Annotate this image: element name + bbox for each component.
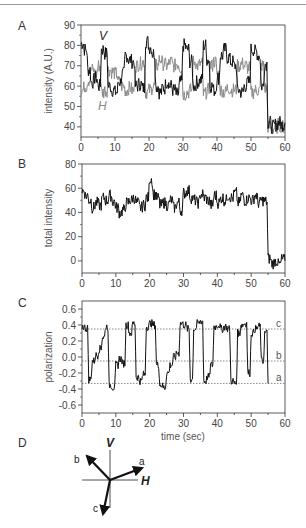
x-tick-label: 30 [178,418,190,429]
x-tick-label: 50 [246,278,258,289]
vector-b-label: b [74,454,80,465]
series-total-line [82,178,285,269]
series-polarization-line [82,320,268,391]
ref-label-b: b [276,350,282,361]
series-h-label: H [98,99,107,113]
y-tick-label: -0.6 [59,400,77,411]
x-axis-title: time (sec) [161,431,205,442]
y-tick-label: 60 [65,183,77,194]
x-tick-label: 50 [245,142,257,153]
y-tick-label: 90 [64,20,76,31]
diagram-h-label: H [141,474,150,488]
panel-d-diagram: V H a b c [74,436,150,514]
panel-b-chart: 0102030405060020406080 total intensity [43,159,291,290]
y-tick-label: 0.0 [62,352,76,363]
y-tick-label: 40 [65,207,77,218]
y-axis-title: total intensity [43,189,54,247]
y-tick-label: 50 [64,101,76,112]
x-tick-label: 40 [212,278,224,289]
x-tick-label: 20 [144,278,156,289]
x-tick-label: 10 [109,142,121,153]
vector-a-label: a [139,456,145,467]
y-tick-label: 80 [64,40,76,51]
diagram-v-label: V [106,436,115,450]
ref-label-a: a [276,372,282,383]
y-tick-label: -0.2 [59,368,77,379]
figure: A B C D 0102030405060405060708090 V H in… [0,0,306,528]
x-tick-label: 20 [143,142,155,153]
y-tick-label: 0.6 [62,304,76,315]
panel-a-chart: 0102030405060405060708090 V H intensity … [43,20,291,154]
vector-b-arrow [87,456,110,480]
x-tick-label: 0 [79,418,85,429]
y-tick-label: 0.2 [62,336,76,347]
vector-c-label: c [93,503,98,514]
axes: 01020304050600.60.40.20.0-0.2-0.4-0.6 [59,304,291,430]
panel-letter-b: B [18,157,26,171]
y-tick-label: 0 [70,255,76,266]
x-tick-label: 10 [110,278,122,289]
x-tick-label: 10 [110,418,122,429]
panel-letter-c: C [18,296,27,310]
x-tick-label: 0 [78,142,84,153]
x-tick-label: 60 [279,142,291,153]
x-tick-label: 30 [177,142,189,153]
x-tick-label: 40 [211,142,223,153]
y-tick-label: 60 [64,81,76,92]
x-tick-label: 50 [246,418,258,429]
x-tick-label: 0 [79,278,85,289]
y-tick-label: 80 [65,159,77,170]
x-tick-label: 40 [212,418,224,429]
plot-frame [82,301,285,413]
plot-frame [82,164,285,273]
plot-frame [81,25,285,137]
ref-label-c: c [276,318,281,329]
panel-c-chart: 01020304050600.60.40.20.0-0.2-0.4-0.6 c … [43,301,291,442]
x-tick-label: 60 [279,418,291,429]
panel-letter-d: D [18,436,27,450]
reference-lines [82,329,285,383]
panel-letter-a: A [18,19,26,33]
axes: 0102030405060020406080 [65,159,291,290]
vector-a-arrow [110,468,142,480]
y-axis-title: polarization [43,331,54,382]
y-tick-label: 0.4 [62,320,76,331]
y-tick-label: 20 [65,231,77,242]
y-axis-title: intensity (A.U.) [43,48,54,114]
y-tick-label: 70 [64,60,76,71]
x-tick-label: 60 [279,278,291,289]
series-v-label: V [99,29,108,43]
x-tick-label: 30 [178,278,190,289]
x-tick-label: 20 [144,418,156,429]
vector-c-arrow [103,480,110,514]
y-tick-label: 40 [64,121,76,132]
y-tick-label: -0.4 [59,384,77,395]
